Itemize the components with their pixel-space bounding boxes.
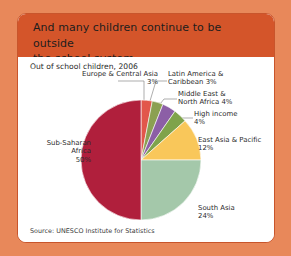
slice-label-europe-central-asia-line1: Europe & Central Asia: [82, 70, 158, 78]
slice-label-high-income-line2: 4%: [194, 118, 205, 126]
slice-label-europe-central-asia-line2: 3%: [147, 78, 158, 86]
slice-label-east-asia-pacific: East Asia & Pacific 12%: [198, 136, 275, 153]
slice-label-sub-saharan-line1: Sub-Saharan: [47, 139, 91, 147]
slice-label-east-asia-line2: 12%: [198, 144, 213, 152]
slice-label-latin-america-line1: Latin America &: [168, 70, 223, 78]
header-title-line1: And many children continue to be outside: [33, 21, 221, 50]
slice-label-east-asia-line1: East Asia & Pacific: [198, 136, 261, 144]
card-body: Out of school children, 2006: [18, 57, 274, 243]
chart-source: Source: UNESCO Institute for Statistics: [30, 227, 155, 235]
slice-label-south-asia-line2: 24%: [198, 212, 213, 220]
card-header: And many children continue to be outside…: [18, 14, 274, 57]
pie-chart: Europe & Central Asia 3% Latin America &…: [18, 57, 275, 243]
slice-label-middle-east-line2: North Africa 4%: [178, 98, 232, 106]
slice-label-high-income: High income 4%: [194, 110, 275, 127]
slice-label-south-asia-line1: South Asia: [198, 204, 235, 212]
slice-label-sub-saharan-africa: Sub-Saharan Africa 50%: [23, 139, 91, 164]
slice-label-europe-central-asia: Europe & Central Asia 3%: [54, 70, 158, 87]
slice-label-middle-east-line1: Middle East &: [178, 90, 226, 98]
slice-label-latin-america-caribbean: Latin America & Caribbean 3%: [168, 70, 275, 87]
info-card: And many children continue to be outside…: [17, 13, 275, 243]
slice-label-high-income-line1: High income: [194, 110, 237, 118]
slice-south-asia: [141, 160, 201, 220]
slice-label-south-asia: South Asia 24%: [198, 204, 275, 221]
slice-label-sub-saharan-line3: 50%: [76, 156, 91, 164]
screenshot-root: And many children continue to be outside…: [0, 0, 291, 256]
slice-label-latin-america-line2: Caribbean 3%: [168, 78, 217, 86]
slice-label-sub-saharan-line2: Africa: [71, 147, 91, 155]
slice-label-middle-east-north-africa: Middle East & North Africa 4%: [178, 90, 275, 107]
